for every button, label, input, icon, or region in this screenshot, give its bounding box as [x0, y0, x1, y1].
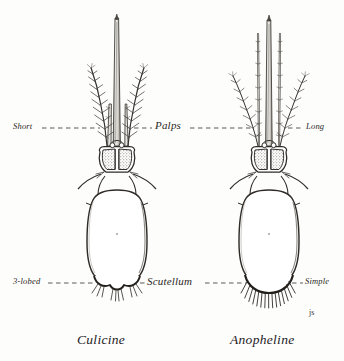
label-scutellum-3lobed: 3-lobed: [13, 276, 40, 286]
specimen-plate: [0, 0, 344, 361]
label-scutellum-simple: Simple: [305, 276, 329, 286]
artist-signature: js: [309, 308, 314, 317]
label-palps-title: Palps: [155, 119, 181, 131]
mosquito-comparison-figure: Short Palps Long 3-lobed Scutellum Simpl…: [0, 0, 344, 361]
anopheline-mesonotum: [238, 190, 300, 280]
culicine-scutellum-3lobed: [92, 276, 142, 301]
specimen-culicine: [78, 14, 156, 301]
specimen-anopheline: [229, 15, 309, 308]
anopheline-proboscis: [266, 15, 273, 146]
anopheline-neck-bristles: [248, 172, 290, 178]
caption-anopheline: Anopheline: [230, 332, 294, 348]
anopheline-long-palp-left: [255, 34, 261, 146]
culicine-proboscis: [113, 14, 120, 146]
caption-culicine: Culicine: [77, 332, 125, 348]
label-palps-long: Long: [306, 121, 324, 131]
culicine-neck-bristles: [96, 172, 138, 178]
anopheline-scutellum-simple: [241, 275, 295, 308]
label-scutellum-title: Scutellum: [147, 275, 192, 287]
culicine-mesonotum: [86, 190, 148, 280]
label-palps-short: Short: [13, 121, 32, 131]
anopheline-long-palp-right: [276, 34, 282, 146]
